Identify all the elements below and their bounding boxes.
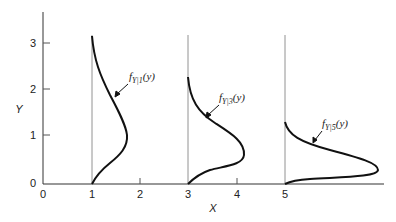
x-tick-4: 4 <box>234 188 240 200</box>
x-tick-0: 0 <box>40 188 46 200</box>
y-tick-1: 1 <box>30 129 36 141</box>
x-tick-1: 1 <box>89 188 95 200</box>
y-axis-label: Y <box>15 103 23 115</box>
x-tick-5: 5 <box>282 188 288 200</box>
x-tick-3: 3 <box>185 188 191 200</box>
y-tick-3: 3 <box>30 37 36 49</box>
y-tick-2: 2 <box>30 83 36 95</box>
curve-label-x5: fY|5(y) <box>322 117 348 132</box>
conditional-density-diagram: 3 2 1 0 0 1 2 3 4 5 Y X fY|1(y) fY|3(y) … <box>0 0 396 222</box>
density-curve-x1 <box>92 36 127 184</box>
x-axis-label: X <box>208 202 217 214</box>
y-tick-0: 0 <box>30 177 36 189</box>
curve-label-x3: fY|3(y) <box>219 91 245 106</box>
curve-label-x1: fY|1(y) <box>129 70 155 85</box>
x-tick-2: 2 <box>137 188 143 200</box>
y-ticks <box>43 43 50 135</box>
